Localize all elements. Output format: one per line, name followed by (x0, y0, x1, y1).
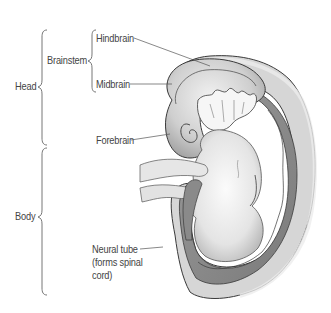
midbrain-label: Midbrain (96, 78, 130, 90)
neural-tube-label-line2: (forms spinal (92, 256, 143, 268)
hindbrain-leader (134, 38, 210, 66)
body-brace (38, 148, 47, 295)
head-label: Head (15, 80, 36, 92)
embryo-illustration (0, 0, 331, 313)
neural-tube-label-line3: cord) (92, 269, 112, 281)
hindbrain-label: Hindbrain (96, 32, 134, 44)
forebrain-leader (131, 134, 170, 140)
brainstem-brace (88, 30, 96, 92)
forebrain-label: Forebrain (96, 134, 134, 146)
head-brace (38, 30, 47, 145)
body-label: Body (15, 210, 35, 222)
embryo-diagram: Head Body Brainstem Hindbrain Midbrain F… (0, 0, 331, 313)
neural-tube-label-line1: Neural tube (92, 243, 138, 255)
brainstem-label: Brainstem (47, 54, 87, 66)
neural-tube-leader (140, 247, 163, 249)
